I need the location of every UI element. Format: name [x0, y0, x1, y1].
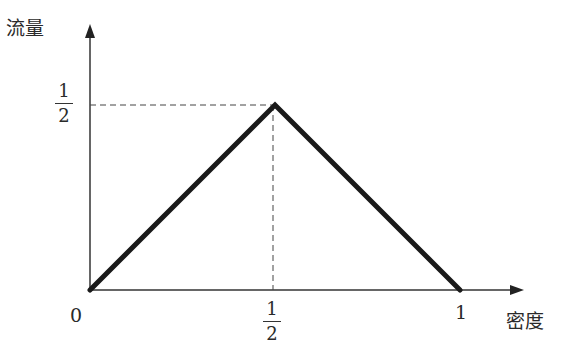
x-tick-half-numerator: 1 [266, 300, 277, 318]
x-axis-arrow-icon [510, 285, 524, 295]
fraction-bar [263, 321, 281, 322]
x-tick-half-denominator: 2 [266, 325, 277, 343]
y-axis-arrow-icon [85, 24, 95, 38]
chart-plot-area [0, 0, 577, 349]
y-tick-half-numerator: 1 [58, 82, 69, 100]
x-tick-one: 1 [455, 303, 467, 322]
y-tick-half-denominator: 2 [58, 107, 69, 125]
y-axis-label: 流量 [6, 19, 44, 38]
flow-density-line [90, 105, 460, 290]
x-axis-label: 密度 [506, 312, 544, 331]
fraction-bar [55, 103, 73, 104]
x-tick-half: 1 2 [263, 300, 281, 343]
x-tick-origin: 0 [70, 306, 82, 325]
y-tick-half: 1 2 [55, 82, 73, 125]
